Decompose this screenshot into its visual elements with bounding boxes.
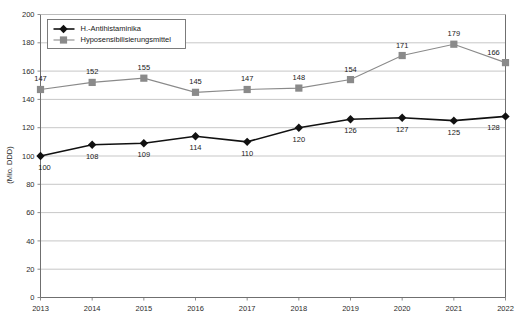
x-tick-label: 2014 xyxy=(84,304,101,313)
line-chart: 020406080100120140160180200 201320142015… xyxy=(0,0,525,325)
y-axis-title: (Mio. DDD) xyxy=(5,146,14,184)
data-label: 120 xyxy=(293,135,306,144)
legend-marker-square xyxy=(60,36,67,43)
data-label: 147 xyxy=(241,74,254,83)
data-point-marker xyxy=(347,76,354,83)
x-tick-label: 2016 xyxy=(187,304,204,313)
data-label: 166 xyxy=(487,48,500,57)
data-point-marker xyxy=(89,79,96,86)
data-label: 145 xyxy=(189,77,202,86)
x-tick-label: 2017 xyxy=(239,304,256,313)
y-tick-label: 40 xyxy=(26,237,34,246)
chart-legend: H.-AntihistaminikaHyposensibilisierungsm… xyxy=(48,20,186,49)
data-label: 109 xyxy=(138,150,151,159)
data-label: 108 xyxy=(86,152,99,161)
legend-label-1: H.-Antihistaminika xyxy=(81,24,142,33)
chart-container: 020406080100120140160180200 201320142015… xyxy=(0,0,525,325)
y-tick-label: 20 xyxy=(26,265,34,274)
x-tick-label: 2015 xyxy=(135,304,152,313)
y-tick-label: 0 xyxy=(30,293,34,302)
data-label: 128 xyxy=(487,123,500,132)
y-tick-label: 200 xyxy=(22,10,35,19)
y-tick-label: 100 xyxy=(22,152,35,161)
y-tick-label: 120 xyxy=(22,123,35,132)
data-point-marker xyxy=(37,86,44,93)
data-label: 100 xyxy=(38,163,51,172)
x-tick-label: 2019 xyxy=(342,304,359,313)
data-label: 110 xyxy=(241,149,253,158)
x-tick-label: 2018 xyxy=(290,304,307,313)
data-point-marker xyxy=(192,89,199,96)
data-label: 171 xyxy=(396,41,409,50)
data-point-marker xyxy=(295,84,302,91)
data-label: 126 xyxy=(344,126,357,135)
data-point-marker xyxy=(399,52,406,59)
y-tick-label: 160 xyxy=(22,67,35,76)
data-label: 154 xyxy=(344,65,357,74)
data-label: 148 xyxy=(293,73,306,82)
data-label: 179 xyxy=(448,29,461,38)
y-tick-label: 180 xyxy=(22,38,35,47)
y-tick-label: 60 xyxy=(26,208,34,217)
x-tick-label: 2013 xyxy=(32,304,49,313)
y-tick-label: 80 xyxy=(26,180,34,189)
data-label: 147 xyxy=(34,74,47,83)
x-tick-label: 2020 xyxy=(394,304,411,313)
x-tick-label: 2021 xyxy=(445,304,462,313)
data-point-marker xyxy=(140,75,147,82)
x-tick-label: 2022 xyxy=(497,304,514,313)
data-label: 152 xyxy=(86,67,99,76)
data-label: 127 xyxy=(396,125,409,134)
data-label: 155 xyxy=(138,63,151,72)
legend-label-2: Hyposensibilisierungsmittel xyxy=(81,35,172,44)
data-label: 125 xyxy=(448,128,461,137)
y-tick-label: 140 xyxy=(22,95,35,104)
data-label: 114 xyxy=(190,143,202,152)
data-point-marker xyxy=(502,59,509,66)
data-point-marker xyxy=(450,41,457,48)
data-point-marker xyxy=(244,86,251,93)
